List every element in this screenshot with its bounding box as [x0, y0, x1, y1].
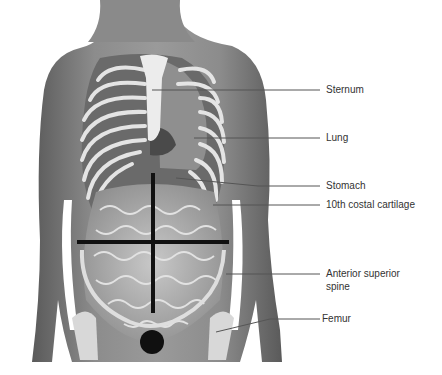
label-anterior-superior-spine-line2: spine [326, 281, 350, 293]
label-lung: Lung [326, 132, 348, 144]
pubic-region [140, 330, 164, 354]
neck [88, 0, 195, 42]
label-anterior-superior-spine-line1: Anterior superior [326, 268, 400, 280]
label-10th-costal-cartilage: 10th costal cartilage [326, 199, 415, 211]
anatomy-diagram: Sternum Lung Stomach 10th costal cartila… [0, 0, 442, 375]
torso-illustration [0, 0, 442, 375]
quadrant-line-horizontal [77, 240, 229, 244]
label-sternum: Sternum [326, 84, 364, 96]
label-femur: Femur [322, 313, 351, 325]
label-stomach: Stomach [326, 180, 365, 192]
